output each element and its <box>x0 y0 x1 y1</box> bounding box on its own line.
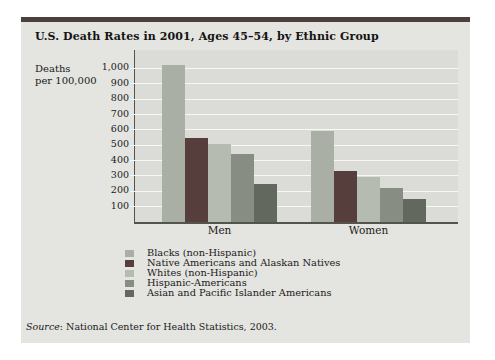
legend-swatch-1 <box>125 250 134 257</box>
page: U.S. Death Rates in 2001, Ages 45–54, by… <box>0 0 495 360</box>
y-tick-label-100: 100 <box>21 201 129 211</box>
source-text: : National Center for Health Statistics,… <box>60 321 277 332</box>
legend-label-5: Asian and Pacific Islander Americans <box>147 288 331 298</box>
bar-men-3 <box>208 144 231 222</box>
bar-men-5 <box>254 184 277 222</box>
y-tick-900 <box>130 83 135 84</box>
bar-men-2 <box>185 138 208 222</box>
plot-area <box>135 50 458 222</box>
source-note: Source: National Center for Health Stati… <box>26 321 277 332</box>
bar-men-1 <box>162 65 185 222</box>
figure-box: U.S. Death Rates in 2001, Ages 45–54, by… <box>21 17 470 343</box>
y-tick-600 <box>130 129 135 130</box>
legend-swatch-2 <box>125 260 134 267</box>
y-tick-label-1000: 1,000 <box>21 62 129 72</box>
y-tick-label-800: 800 <box>21 93 129 103</box>
legend: Blacks (non-Hispanic)Native Americans an… <box>125 248 340 298</box>
source-word: Source <box>26 321 60 332</box>
y-tick-label-200: 200 <box>21 185 129 195</box>
y-tick-300 <box>130 175 135 176</box>
chart-title: U.S. Death Rates in 2001, Ages 45–54, by… <box>35 30 379 43</box>
legend-swatch-5 <box>125 290 134 297</box>
y-tick-1000 <box>130 68 135 69</box>
y-tick-label-600: 600 <box>21 124 129 134</box>
bar-women-1 <box>311 131 334 222</box>
y-tick-400 <box>130 160 135 161</box>
y-tick-label-900: 900 <box>21 78 129 88</box>
bar-women-3 <box>357 177 380 222</box>
y-tick-700 <box>130 114 135 115</box>
category-label-men: Men <box>208 224 232 236</box>
y-axis-tick-labels: 1002003004005006007008009001,000 <box>21 50 129 222</box>
y-tick-800 <box>130 99 135 100</box>
x-axis-line <box>134 222 458 224</box>
bar-women-2 <box>334 171 357 222</box>
bar-women-5 <box>403 199 426 222</box>
y-tick-label-400: 400 <box>21 155 129 165</box>
y-tick-100 <box>130 206 135 207</box>
legend-item-5: Asian and Pacific Islander Americans <box>125 288 340 298</box>
legend-swatch-4 <box>125 280 134 287</box>
bar-women-4 <box>380 188 403 222</box>
y-tick-200 <box>130 191 135 192</box>
legend-swatch-3 <box>125 270 134 277</box>
bar-men-4 <box>231 154 254 222</box>
y-tick-500 <box>130 145 135 146</box>
category-label-women: Women <box>349 224 388 236</box>
y-tick-label-700: 700 <box>21 109 129 119</box>
y-tick-label-300: 300 <box>21 170 129 180</box>
y-tick-label-500: 500 <box>21 139 129 149</box>
y-axis-line <box>134 50 135 222</box>
